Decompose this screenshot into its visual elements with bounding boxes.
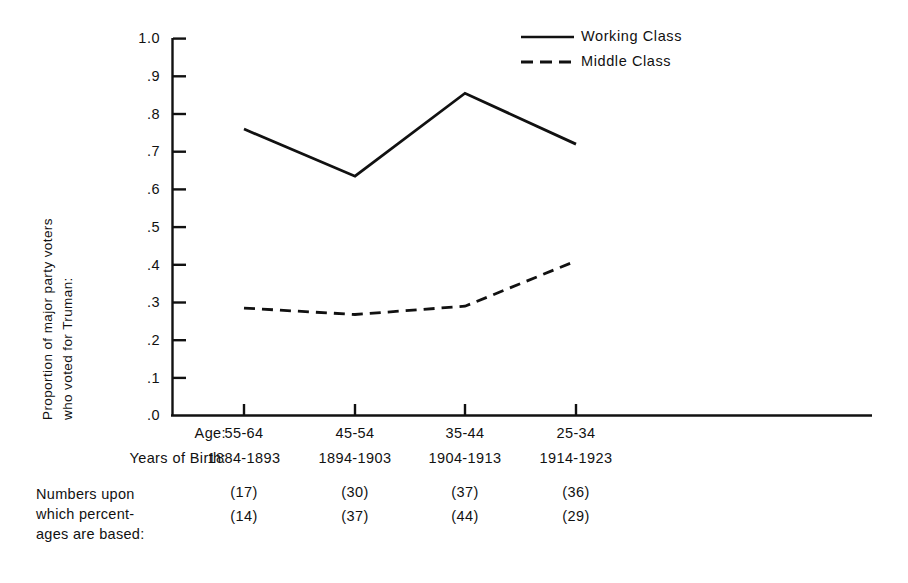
n-middle-class-1: (37) <box>300 508 410 524</box>
n-block-label: Numbers upon which percent- ages are bas… <box>36 484 145 544</box>
series-line-working-class <box>244 93 576 176</box>
age-category-3: 25-34 <box>521 425 631 441</box>
n-working-class-2: (37) <box>410 484 520 500</box>
n-middle-class-2: (44) <box>410 508 520 524</box>
birth-years-1: 1894-1903 <box>300 450 410 466</box>
chart-figure: Proportion of major party voters who vot… <box>0 0 908 583</box>
n-middle-class-0: (14) <box>189 508 299 524</box>
n-block-label-line-3: ages are based: <box>36 524 145 544</box>
legend-label-middle-class: Middle Class <box>581 53 671 69</box>
n-working-class-0: (17) <box>189 484 299 500</box>
n-working-class-1: (30) <box>300 484 410 500</box>
age-category-1: 45-54 <box>300 425 410 441</box>
n-block-label-line-1: Numbers upon <box>36 484 145 504</box>
age-category-2: 35-44 <box>410 425 520 441</box>
birth-years-2: 1904-1913 <box>410 450 520 466</box>
years-of-birth-row: Years of Birth: 1884-1893 1894-1903 1904… <box>0 450 908 472</box>
series-line-middle-class <box>244 261 576 315</box>
age-row: Age: 55-64 45-54 35-44 25-34 <box>0 425 908 447</box>
age-category-0: 55-64 <box>189 425 299 441</box>
birth-years-0: 1884-1893 <box>189 450 299 466</box>
birth-years-3: 1914-1923 <box>521 450 631 466</box>
n-working-class-3: (36) <box>521 484 631 500</box>
y-axis-ticks <box>173 39 186 378</box>
n-middle-class-3: (29) <box>521 508 631 524</box>
legend-label-working-class: Working Class <box>581 28 682 44</box>
x-axis-ticks <box>244 404 576 415</box>
n-block-label-line-2: which percent- <box>36 504 145 524</box>
